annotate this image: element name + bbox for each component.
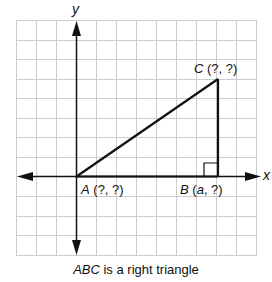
caption-text: is a right triangle <box>100 262 199 277</box>
arrow-up-icon <box>72 21 81 36</box>
point-b-name: B <box>180 182 189 197</box>
arrow-down-icon <box>72 240 81 255</box>
arrow-left-icon <box>17 172 33 181</box>
x-axis-label: x <box>263 168 270 182</box>
point-c-label: C (?, ?) <box>194 62 237 75</box>
point-c-name: C <box>194 61 203 76</box>
point-a-coords: (?, ?) <box>93 182 123 197</box>
arrow-right-icon <box>245 172 261 181</box>
point-b-coords: (a, ?) <box>192 182 222 197</box>
coordinate-plane <box>0 0 272 282</box>
point-b-label: B (a, ?) <box>180 183 223 196</box>
point-a-label: A (?, ?) <box>81 183 124 196</box>
y-axis-label: y <box>72 2 79 16</box>
point-c-coords: (?, ?) <box>207 61 237 76</box>
grid <box>16 20 257 256</box>
point-a-name: A <box>81 182 90 197</box>
caption-triangle-name: ABC <box>73 262 100 277</box>
right-angle-marker <box>204 163 218 177</box>
figure-caption: ABC is a right triangle <box>0 262 272 277</box>
